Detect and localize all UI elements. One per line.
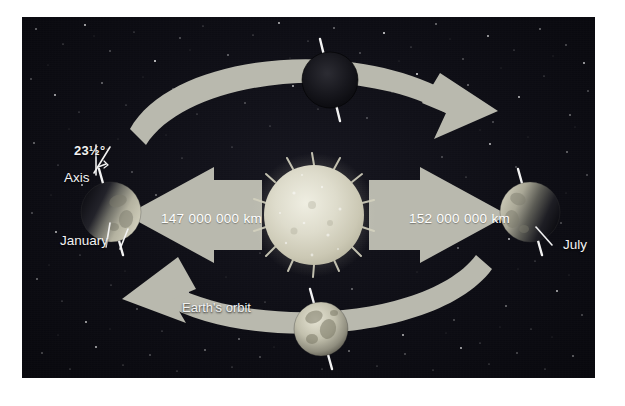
sun-body: [252, 153, 376, 277]
january-label: January: [60, 233, 108, 248]
diagram-stage: 23½° Axis January July Earth's orbit 147…: [0, 0, 625, 406]
july-label: July: [563, 237, 587, 252]
earth-bottom-body: [294, 289, 348, 369]
orbit-diagram-artwork: [22, 17, 595, 378]
distance-january-label: 147 000 000 km: [161, 211, 262, 226]
distance-july-label: 152 000 000 km: [409, 211, 510, 226]
earth-top-body: [302, 39, 358, 121]
earths-orbit-label: Earth's orbit: [182, 300, 251, 315]
axial-tilt-label: 23½°: [74, 143, 105, 158]
space-background-panel: 23½° Axis January July Earth's orbit 147…: [22, 17, 595, 378]
axis-label: Axis: [64, 170, 90, 185]
